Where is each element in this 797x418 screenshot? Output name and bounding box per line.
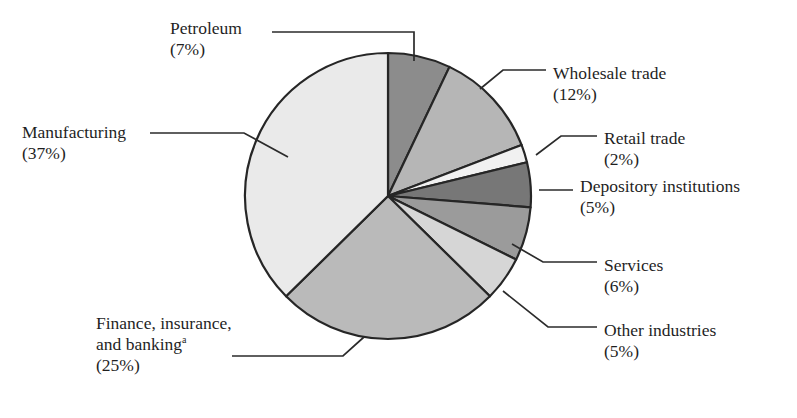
pie-chart-figure: Petroleum (7%) Manufacturing (37%) Finan… bbox=[0, 0, 797, 418]
label-manufacturing-text: Manufacturing bbox=[22, 122, 126, 142]
label-wholesale-text: Wholesale trade bbox=[553, 63, 666, 83]
label-retail-trade: Retail trade (2%) bbox=[604, 128, 685, 170]
leader-line-finance bbox=[232, 337, 364, 356]
label-depository-institutions: Depository institutions (5%) bbox=[580, 176, 740, 218]
label-finance-text-line1: Finance, insurance, bbox=[96, 313, 232, 333]
label-retail-percent: (2%) bbox=[604, 149, 685, 170]
label-depository-text: Depository institutions bbox=[580, 176, 740, 196]
label-finance-line2-words: and banking bbox=[96, 334, 182, 354]
label-finance-text-line2: and bankinga bbox=[96, 334, 232, 355]
label-finance-insurance-banking: Finance, insurance, and bankinga (25%) bbox=[96, 313, 232, 376]
label-retail-text: Retail trade bbox=[604, 128, 685, 148]
leader-line-retail bbox=[536, 136, 597, 155]
pie-slices bbox=[245, 53, 531, 339]
label-finance-percent: (25%) bbox=[96, 355, 232, 376]
label-manufacturing: Manufacturing (37%) bbox=[22, 122, 126, 164]
leader-line-services bbox=[512, 244, 597, 262]
label-other-percent: (5%) bbox=[604, 341, 716, 362]
label-depository-percent: (5%) bbox=[580, 197, 740, 218]
label-wholesale-trade: Wholesale trade (12%) bbox=[553, 63, 666, 105]
label-services-percent: (6%) bbox=[604, 276, 663, 297]
label-petroleum-text: Petroleum bbox=[170, 18, 242, 38]
label-manufacturing-percent: (37%) bbox=[22, 143, 126, 164]
label-services-text: Services bbox=[604, 255, 663, 275]
label-services: Services (6%) bbox=[604, 255, 663, 297]
leader-line-other-industries bbox=[503, 291, 597, 327]
label-wholesale-percent: (12%) bbox=[553, 84, 666, 105]
label-petroleum-percent: (7%) bbox=[170, 39, 242, 60]
label-petroleum: Petroleum (7%) bbox=[170, 18, 242, 60]
label-other-text: Other industries bbox=[604, 320, 716, 340]
leader-line-wholesale bbox=[480, 70, 546, 89]
footnote-marker-a: a bbox=[182, 334, 186, 345]
label-other-industries: Other industries (5%) bbox=[604, 320, 716, 362]
